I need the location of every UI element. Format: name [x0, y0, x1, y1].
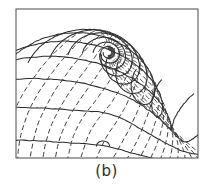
flow-net-plate	[0, 0, 213, 163]
figure-container: (b)	[0, 0, 213, 192]
figure-caption: (b)	[95, 163, 118, 180]
caption-row: (b)	[0, 161, 213, 180]
flow-net-diagram	[0, 0, 213, 163]
